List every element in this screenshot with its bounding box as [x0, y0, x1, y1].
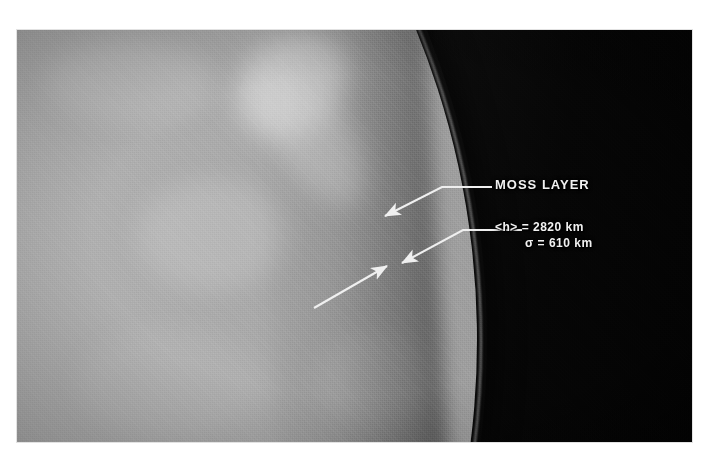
solar-limb-photograph: MOSS LAYER <h> = 2820 km σ = 610 km [17, 30, 692, 442]
figure-page: MOSS LAYER <h> = 2820 km σ = 610 km [0, 0, 716, 458]
vignette [17, 30, 692, 442]
